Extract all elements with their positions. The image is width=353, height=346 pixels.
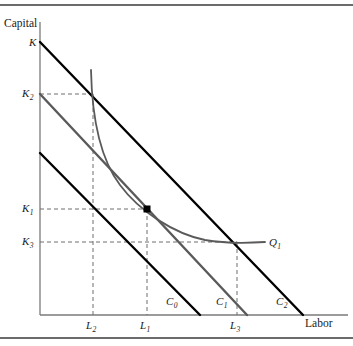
y-tick-label-K1: K1 (22, 203, 33, 214)
label-subscript: 1 (30, 208, 34, 217)
x-axis-title: Labor (305, 318, 332, 330)
curve-label-C1: C1 (216, 296, 227, 307)
label-base: Q (269, 236, 277, 248)
label-subscript: 2 (92, 325, 96, 334)
label-subscript: 2 (284, 301, 288, 310)
isocost-line-C0 (40, 153, 200, 315)
y-tick-label-K: K (29, 37, 36, 48)
curve-label-Q1: Q1 (269, 237, 281, 248)
label-base: C (216, 295, 223, 307)
label-base: K (22, 235, 29, 247)
x-tick-label-L2: L2 (86, 320, 96, 331)
label-base: K (22, 87, 29, 99)
y-tick-label-K3: K3 (22, 236, 33, 247)
isoquant-curve (91, 70, 265, 243)
label-subscript: 2 (30, 93, 34, 102)
label-base: C (276, 295, 283, 307)
label-subscript: 1 (224, 301, 228, 310)
label-subscript: 0 (174, 301, 178, 310)
label-subscript: 1 (146, 325, 150, 334)
y-axis-title: Capital (4, 18, 37, 30)
label-base: K (29, 36, 36, 48)
label-subscript: 1 (277, 242, 281, 251)
y-tick-label-K2: K2 (22, 88, 33, 99)
curve-label-C0: C0 (166, 296, 177, 307)
isocost-line-C2 (40, 42, 303, 315)
label-subscript: 3 (30, 241, 34, 250)
isocost-line-C1 (40, 94, 247, 315)
label-base: C (166, 295, 173, 307)
x-tick-label-L3: L3 (230, 320, 240, 331)
label-base: K (22, 202, 29, 214)
curve-label-C2: C2 (276, 296, 287, 307)
isoquant-isocost-figure: Capital Labor KK2K1K3L2L1L3C0C1C2Q1 (0, 0, 353, 346)
x-tick-label-L1: L1 (140, 320, 150, 331)
label-subscript: 3 (236, 325, 240, 334)
isocost-lines (40, 42, 303, 315)
plot-canvas (0, 0, 353, 346)
tangency-point-marker (144, 206, 151, 213)
